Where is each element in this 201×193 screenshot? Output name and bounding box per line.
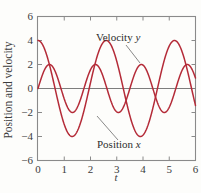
annotation-label-position-symbol: x bbox=[135, 138, 141, 150]
x-tick-label: 5 bbox=[167, 163, 173, 175]
y-tick-label: −2 bbox=[21, 106, 33, 118]
y-tick-label: −6 bbox=[21, 154, 33, 166]
y-tick-label: −4 bbox=[21, 130, 33, 142]
chart-figure: 0123456 6420−2−4−6 t Position and veloci… bbox=[0, 0, 201, 193]
annotation-label-position-name: Position bbox=[97, 138, 136, 150]
x-tick-label: 1 bbox=[62, 163, 68, 175]
x-tick-label: 6 bbox=[193, 163, 199, 175]
y-axis-title: Position and velocity bbox=[2, 41, 15, 138]
x-tick-label: 4 bbox=[140, 163, 146, 175]
y-tick-label: 6 bbox=[28, 10, 34, 22]
y-tick-label: 2 bbox=[28, 58, 34, 70]
y-tick-label: 4 bbox=[28, 34, 34, 46]
position-velocity-chart: 0123456 6420−2−4−6 t Position and veloci… bbox=[0, 0, 201, 193]
y-tick-label: 0 bbox=[28, 82, 34, 94]
annotation-label-velocity: Velocity y bbox=[96, 31, 140, 43]
annotation-label-velocity-symbol: y bbox=[134, 31, 140, 43]
x-tick-label: 0 bbox=[35, 163, 41, 175]
annotation-label-velocity-name: Velocity bbox=[96, 31, 135, 43]
annotation-label-position: Position x bbox=[97, 138, 141, 150]
x-tick-label: 2 bbox=[88, 163, 94, 175]
